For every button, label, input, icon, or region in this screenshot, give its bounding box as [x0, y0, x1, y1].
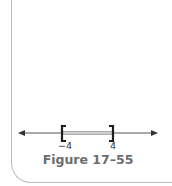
- tick-label-right: 4: [110, 140, 116, 151]
- figure-caption: Figure 17–55: [0, 152, 172, 167]
- left-arrow-icon: [18, 130, 25, 136]
- right-arrow-icon: [151, 130, 158, 136]
- tick-label-left: −4: [58, 140, 72, 151]
- interval-shading: [63, 132, 112, 135]
